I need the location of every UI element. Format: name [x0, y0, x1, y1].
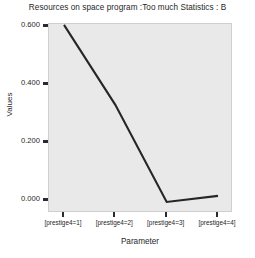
line-chart: Resources on space program :Too much Sta…	[0, 0, 255, 258]
plot-area	[48, 23, 232, 212]
y-tick-label: 0.400	[21, 78, 40, 87]
chart-title: Resources on space program :Too much Sta…	[0, 3, 255, 12]
y-tick-label: 0.000	[21, 194, 40, 203]
y-tick-label: 0.200	[21, 136, 40, 145]
y-axis-title: Values	[5, 75, 14, 135]
y-tick-label: 0.600	[21, 20, 40, 29]
x-axis-title: Parameter	[48, 237, 232, 246]
data-line-series	[49, 24, 233, 213]
x-tick-label: [prestige4=4]	[177, 219, 255, 226]
series-polyline	[64, 25, 218, 202]
